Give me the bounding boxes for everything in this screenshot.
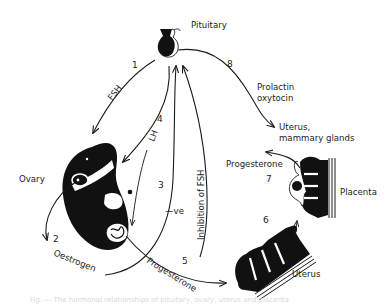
- number-8: 8: [227, 59, 233, 69]
- label-progesterone-ovary: Progesterone: [145, 255, 199, 294]
- label-progesterone-placenta: Progesterone: [226, 159, 283, 169]
- label-oestrogen: Oestrogen: [52, 248, 97, 274]
- label-fsh: FSH: [106, 83, 124, 102]
- label-uterus-mammary-2: mammary glands: [279, 133, 355, 143]
- label-uterus-mammary-1: Uterus,: [279, 122, 310, 132]
- label-uterus: Uterus: [292, 269, 321, 279]
- arrow-fsh: [93, 60, 155, 133]
- label-inhibition-fsh: Inhibition of FSH: [196, 169, 206, 240]
- ovary-icon: [63, 143, 133, 250]
- number-1: 1: [132, 60, 138, 70]
- pituitary-icon: [158, 29, 180, 57]
- uterus-icon: [235, 225, 316, 300]
- number-7: 7: [266, 174, 272, 184]
- number-2: 2: [53, 234, 59, 244]
- placenta-icon: [289, 157, 335, 218]
- hormone-diagram: Pituitary 1 FSH 4 LH 3 —ve Inhibition of…: [0, 0, 389, 308]
- number-4: 4: [157, 114, 163, 124]
- label-pituitary: Pituitary: [191, 20, 227, 30]
- label-negative: —ve: [165, 206, 184, 216]
- label-oxytocin: oxytocin: [257, 93, 293, 103]
- number-5: 5: [182, 256, 188, 266]
- figure-caption: Fig. — The hormonal relationships of pit…: [30, 296, 370, 304]
- number-6: 6: [263, 215, 269, 225]
- arrow-lh-branch: [132, 150, 147, 225]
- label-prolactin: Prolactin: [257, 82, 294, 92]
- label-ovary: Ovary: [19, 174, 45, 184]
- label-placenta: Placenta: [340, 187, 377, 197]
- number-3: 3: [158, 180, 164, 190]
